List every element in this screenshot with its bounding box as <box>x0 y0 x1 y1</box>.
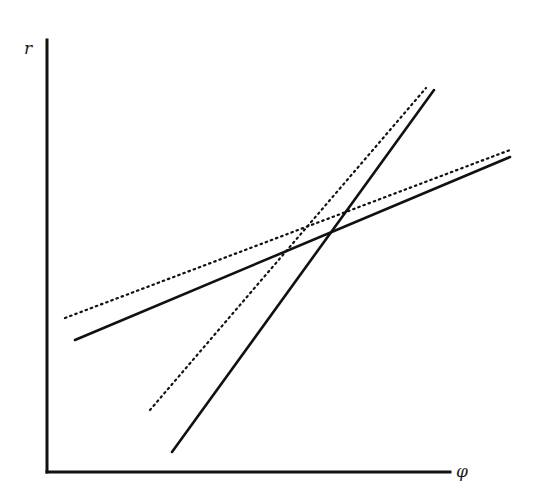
x-axis-label: φ <box>456 461 468 481</box>
diagram-canvas: r φ <box>0 0 539 504</box>
solid-shallow-line <box>75 157 510 340</box>
solid-steep-line <box>172 90 434 452</box>
y-axis-label: r <box>24 38 33 58</box>
